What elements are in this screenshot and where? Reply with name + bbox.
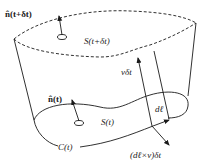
- top-surface-boundary: [14, 11, 196, 57]
- line-element-label: dℓ: [155, 104, 164, 114]
- surface-top-label: S(t+δt): [84, 36, 110, 46]
- cross-product-arrow: [152, 126, 169, 145]
- line-element-arrow: [153, 120, 169, 126]
- left-wall-line: [14, 39, 34, 120]
- surface-bottom-label: S(t): [101, 117, 114, 127]
- normal-bottom-label: n̂(t): [48, 94, 62, 104]
- curve-label: C(t): [58, 142, 73, 152]
- surface-sweep-diagram: n̂(t+δt) S(t+δt) n̂(t) S(t) C(t) vδt dℓ …: [0, 0, 208, 160]
- area-element-label: (dℓ×v)δt: [130, 150, 161, 160]
- velocity-displacement-label: vδt: [121, 67, 132, 77]
- displacement-arrow: [138, 58, 152, 126]
- normal-vector-top: [58, 16, 67, 40]
- right-wall-line: [188, 23, 196, 96]
- normal-top-label: n̂(t+δt): [5, 9, 32, 19]
